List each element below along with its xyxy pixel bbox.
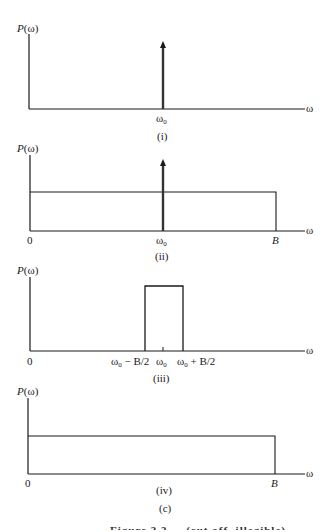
panel-iv-tick-B: B (271, 477, 278, 489)
panel-ii-label: (ii) (155, 250, 168, 262)
panel-ii-y-axis-label: P(ω) (17, 142, 38, 154)
sub-figure-label: (c) (159, 502, 171, 514)
panel-iii-y-axis-label: P(ω) (17, 264, 38, 276)
panel-ii-plot (30, 155, 305, 231)
panel-iii-tick-omega0: ω0 (156, 355, 167, 369)
panel-i-x-axis-label: ω (306, 102, 313, 114)
panel-i-plot (29, 34, 305, 109)
panel-i-y-axis-label: P(ω) (17, 22, 38, 34)
panel-iv-tick-zero: 0 (25, 477, 31, 489)
figure-line-art (0, 0, 331, 532)
panel-iii-tick-omega0-minus-B2: ω0 − B/2 (111, 355, 149, 369)
panel-iv-y-axis-label: P(ω) (17, 385, 38, 397)
panel-ii-tick-zero: 0 (27, 234, 33, 246)
panel-ii-x-axis-label: ω (306, 224, 313, 236)
panel-iv-x-axis-label: ω (306, 467, 313, 479)
figure-caption-cutoff: Figure 3.3 ... (cut off, illegible) (110, 524, 286, 530)
panel-i-label: (i) (157, 130, 167, 142)
panel-iv-label: (iv) (156, 484, 172, 496)
panel-iii-x-axis-label: ω (306, 344, 313, 356)
panel-iii-tick-zero: 0 (27, 355, 33, 367)
panel-iv-plot (28, 398, 305, 474)
panel-ii-tick-omega0: ω0 (156, 234, 167, 248)
panel-iii-label: (iii) (153, 372, 170, 384)
panel-i-tick-omega0: ω0 (156, 112, 167, 126)
panel-iii-tick-omega0-plus-B2: ω0 + B/2 (177, 355, 215, 369)
panel-iii-plot (30, 277, 305, 351)
panel-ii-tick-B: B (272, 234, 279, 246)
